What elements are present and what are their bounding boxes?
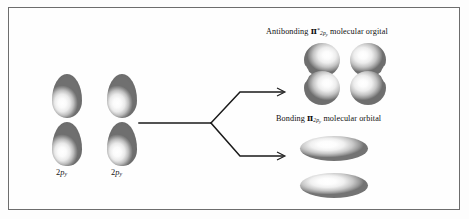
kidney-notch <box>289 63 309 85</box>
antibonding-molecular-orbital <box>298 44 392 104</box>
p-lobe-upper <box>52 74 82 118</box>
kidney-lobe-lower <box>304 71 340 105</box>
bonding-prefix: Bonding <box>276 114 307 123</box>
antibonding-subscript: 2py <box>320 30 328 36</box>
figure-canvas: 2py 2py Antibonding π*2py molecular orgi… <box>0 0 469 219</box>
bonding-suffix: molecular orbital <box>321 114 381 123</box>
atomic-orbital-right <box>105 74 139 166</box>
antibonding-lobe-right <box>350 44 392 104</box>
atomic-orbital-left-label: 2py <box>56 168 67 177</box>
antibonding-suffix: molecular orgital <box>328 27 388 36</box>
bonding-molecular-orbital <box>300 136 368 198</box>
bonding-label: Bonding π2py molecular orbital <box>276 113 381 124</box>
kidney-notch <box>381 63 401 85</box>
antibonding-lobe-left <box>298 44 340 104</box>
bonding-lobe-upper <box>300 136 368 161</box>
antibonding-label: Antibonding π*2py molecular orgital <box>266 26 388 37</box>
atomic-orbital-left <box>50 74 84 166</box>
bonding-lobe-lower <box>300 173 368 198</box>
atomic-orbital-right-label: 2py <box>111 168 122 177</box>
p-lobe-lower <box>107 122 137 166</box>
label-subscript: y <box>119 171 122 177</box>
label-subscript: y <box>64 171 67 177</box>
antibonding-prefix: Antibonding <box>266 27 311 36</box>
p-lobe-upper <box>107 74 137 118</box>
p-lobe-lower <box>52 122 82 166</box>
